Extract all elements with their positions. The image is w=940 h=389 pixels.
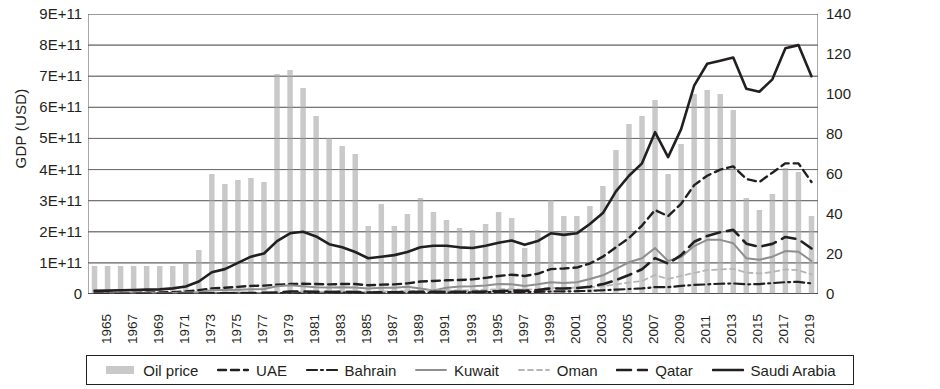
chart-canvas <box>88 14 818 294</box>
legend-swatch-saudi-arabia <box>712 363 744 377</box>
legend-swatch-oil-price <box>104 363 136 377</box>
legend-item[interactable]: Kuwait <box>415 362 499 379</box>
y-right-tick-label: 40 <box>826 206 843 221</box>
legend-item[interactable]: Oman <box>518 362 598 379</box>
x-tick-label: 2017 <box>777 314 791 344</box>
bar <box>183 264 188 294</box>
bar <box>339 146 344 294</box>
y-right-tick-label: 140 <box>826 6 851 21</box>
bar <box>261 182 266 294</box>
legend-swatch-qatar <box>616 363 648 377</box>
chart-root: GDP (USD) Oil price (USD @2020 prices) 0… <box>0 0 940 389</box>
y-right-tick-label: 60 <box>826 166 843 181</box>
x-axis-ticks: 1965196719691971197319751977197919811983… <box>88 296 818 348</box>
bar <box>691 94 696 294</box>
legend-item[interactable]: Bahrain <box>306 362 397 379</box>
y-right-tick-label: 80 <box>826 126 843 141</box>
bar <box>470 230 475 294</box>
x-tick-label: 1967 <box>126 314 140 344</box>
bar <box>496 212 501 294</box>
y-right-tick-label: 120 <box>826 46 851 61</box>
bar <box>717 94 722 294</box>
x-tick-label: 2007 <box>647 314 661 344</box>
chart-legend: Oil priceUAEBahrainKuwaitOmanQatarSaudi … <box>86 355 854 385</box>
bar <box>444 220 449 294</box>
legend-item[interactable]: Oil price <box>104 362 198 379</box>
x-tick-label: 2015 <box>751 314 765 344</box>
bar <box>678 144 683 294</box>
plot-area <box>88 14 818 294</box>
legend-label: Qatar <box>655 362 693 379</box>
bar <box>509 218 514 294</box>
y-right-tick-label: 0 <box>826 286 834 301</box>
bar <box>548 200 553 294</box>
bar <box>522 248 527 294</box>
bar <box>287 70 292 294</box>
x-tick-label: 2003 <box>595 314 609 344</box>
y-left-tick-label: 8E+11 <box>39 37 82 52</box>
series-line-saudi-arabia <box>95 45 812 291</box>
x-tick-label: 2009 <box>673 314 687 344</box>
x-tick-label: 1985 <box>360 314 374 344</box>
y-right-tick-label: 20 <box>826 246 843 261</box>
x-tick-label: 1999 <box>543 314 557 344</box>
bar <box>796 172 801 294</box>
x-tick-label: 1991 <box>438 314 452 344</box>
x-tick-label: 1975 <box>230 314 244 344</box>
y-left-tick-label: 4E+11 <box>39 162 82 177</box>
x-tick-label: 2005 <box>621 314 635 344</box>
legend-swatch-uae <box>217 363 249 377</box>
bar <box>379 204 384 294</box>
bar <box>248 178 253 294</box>
bar <box>783 168 788 294</box>
x-tick-label: 2013 <box>725 314 739 344</box>
bar <box>600 186 605 294</box>
legend-item[interactable]: Saudi Arabia <box>712 362 836 379</box>
bar <box>457 228 462 294</box>
x-tick-label: 1973 <box>204 314 218 344</box>
bar <box>665 174 670 294</box>
oil-price-bars <box>92 70 814 294</box>
x-tick-label: 2001 <box>569 314 583 344</box>
bar <box>366 226 371 294</box>
y-left-tick-label: 2E+11 <box>39 224 82 239</box>
bar <box>196 250 201 294</box>
bar <box>209 174 214 294</box>
bar <box>744 198 749 294</box>
legend-swatch-oman <box>518 363 550 377</box>
x-tick-label: 1977 <box>256 314 270 344</box>
bar <box>626 124 631 294</box>
x-tick-label: 1971 <box>178 314 192 344</box>
legend-item[interactable]: Qatar <box>616 362 693 379</box>
y-left-tick-label: 5E+11 <box>39 130 82 145</box>
y-left-tick-label: 0 <box>74 286 82 301</box>
y-left-tick-label: 6E+11 <box>39 99 82 114</box>
legend-label: Oman <box>557 362 598 379</box>
legend-swatch-bahrain <box>306 363 338 377</box>
x-tick-label: 1993 <box>465 314 479 344</box>
y-axis-right-ticks: 020406080100120140 <box>826 0 886 389</box>
legend-swatch-kuwait <box>415 363 447 377</box>
legend-label: Oil price <box>143 362 198 379</box>
legend-label: Saudi Arabia <box>751 362 836 379</box>
bar <box>483 224 488 294</box>
x-tick-label: 2011 <box>699 315 713 344</box>
bar <box>235 180 240 294</box>
x-tick-label: 1995 <box>491 314 505 344</box>
legend-label: Kuwait <box>454 362 499 379</box>
series-line-uae <box>95 163 812 293</box>
bar <box>652 100 657 294</box>
legend-label: UAE <box>256 362 287 379</box>
legend-item[interactable]: UAE <box>217 362 287 379</box>
bar <box>731 110 736 294</box>
x-tick-label: 1983 <box>334 314 348 344</box>
bar <box>757 210 762 294</box>
bar <box>613 150 618 294</box>
bar <box>326 138 331 294</box>
x-tick-label: 2019 <box>803 314 817 344</box>
bar <box>704 90 709 294</box>
x-tick-label: 1969 <box>152 314 166 344</box>
y-axis-left-ticks: 01E+112E+113E+114E+115E+116E+117E+118E+1… <box>0 0 82 389</box>
x-tick-label: 1965 <box>100 314 114 344</box>
x-tick-label: 1979 <box>282 314 296 344</box>
